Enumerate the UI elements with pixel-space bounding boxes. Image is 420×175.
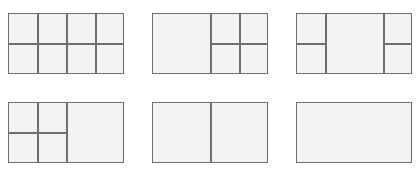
layout-option-single[interactable] [296,102,412,163]
layout-option-large-center-2-sides[interactable] [296,13,412,74]
layout-option-grid-4x2[interactable] [8,13,124,74]
layout-option-two-columns[interactable] [152,102,268,163]
divider [9,132,67,134]
divider [210,103,212,162]
layout-option-4-left-large-right[interactable] [8,102,124,163]
divider [383,43,411,45]
divider [297,43,325,45]
divider [9,43,123,45]
layout-option-large-left-4-right[interactable] [152,13,268,74]
divider [325,14,327,73]
divider [210,43,267,45]
